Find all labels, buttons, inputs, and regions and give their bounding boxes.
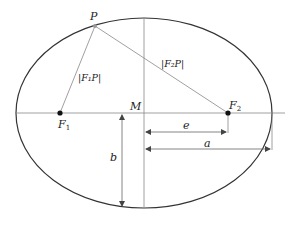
label-f1: F1 (57, 118, 70, 132)
label-f2p: |F₂P| (161, 58, 184, 70)
segment-f2p (95, 26, 228, 113)
focus-f1 (57, 110, 62, 115)
label-m: M (129, 100, 142, 113)
label-p: P (89, 10, 98, 23)
ellipse-svg: P M F1 F2 |F₁P| |F₂P| b e a (0, 0, 285, 227)
label-f2: F2 (228, 99, 241, 113)
label-e: e (183, 119, 190, 132)
segment-f1p (60, 26, 95, 113)
label-a: a (204, 137, 211, 150)
point-p (93, 24, 97, 28)
ellipse-diagram: P M F1 F2 |F₁P| |F₂P| b e a (0, 0, 285, 227)
label-b: b (110, 151, 117, 164)
label-f1p: |F₁P| (78, 72, 101, 84)
